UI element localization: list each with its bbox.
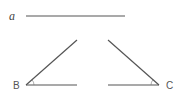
segment-a-label: a: [9, 9, 15, 23]
diagram-canvas: a B C: [0, 0, 180, 100]
angle-c: C: [108, 40, 173, 91]
vertex-c-label: C: [166, 80, 173, 91]
angle-b-arc: [32, 80, 34, 85]
angle-b-ray: [26, 40, 77, 85]
angle-c-arc: [151, 80, 153, 85]
angle-b: B: [13, 40, 77, 91]
vertex-b-label: B: [13, 80, 20, 91]
angle-c-ray: [108, 40, 159, 85]
